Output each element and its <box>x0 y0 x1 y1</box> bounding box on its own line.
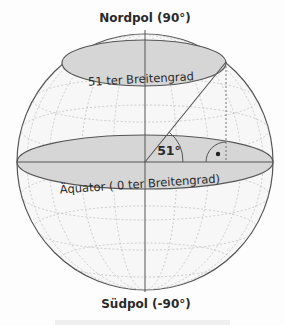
right-angle-dot <box>216 152 220 156</box>
globe-diagram: Nordpol (90°) Südpol (-90°) 51 ter Breit… <box>0 0 285 325</box>
cut-off-caption <box>55 320 230 325</box>
north-pole-label: Nordpol (90°) <box>99 11 191 25</box>
angle-label: 51° <box>157 143 181 158</box>
south-pole-label: Südpol (-90°) <box>101 297 191 311</box>
